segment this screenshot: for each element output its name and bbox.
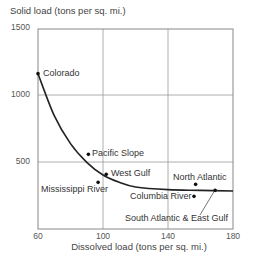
x-tick-140: 140	[153, 231, 183, 241]
label-colorado: Colorado	[43, 68, 80, 78]
x-axis-label: Dissolved load (tons per sq. mi.)	[0, 241, 253, 252]
data-point	[192, 195, 196, 199]
data-point	[194, 183, 198, 187]
data-point	[213, 189, 217, 193]
x-tick-100: 100	[88, 231, 118, 241]
label-south-atlantic-east-gulf: South Atlantic & East Gulf	[125, 213, 228, 223]
data-point	[87, 153, 91, 157]
plot-area	[0, 0, 253, 265]
x-tick-60: 60	[23, 231, 53, 241]
label-columbia-river: Columbia River	[130, 191, 192, 201]
leader-line	[200, 190, 215, 215]
label-west-gulf: West Gulf	[111, 168, 150, 178]
data-point	[104, 173, 108, 177]
label-north-atlantic: North Atlantic	[173, 172, 227, 182]
data-point	[36, 72, 40, 76]
label-pacific-slope: Pacific Slope	[92, 148, 144, 158]
x-tick-180: 180	[218, 231, 248, 241]
label-mississippi-river: Mississippi River	[41, 184, 108, 194]
